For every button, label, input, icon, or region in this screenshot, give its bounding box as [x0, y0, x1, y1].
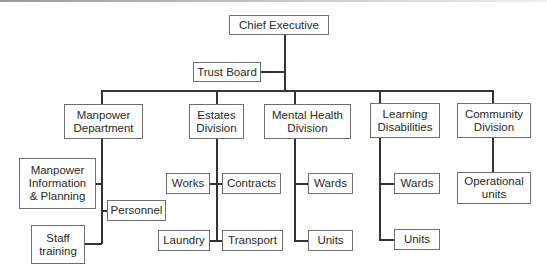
ld-wards-connector — [379, 183, 394, 185]
works-contracts-connector — [209, 183, 223, 185]
division-bus-line — [101, 90, 493, 92]
staff-connector — [84, 243, 102, 245]
trunk-line — [284, 34, 286, 91]
node-mh-wards: Wards — [308, 173, 353, 194]
node-contracts: Contracts — [222, 173, 281, 194]
learning-trunk — [379, 137, 381, 240]
node-personnel: Personnel — [107, 200, 166, 221]
scan-border — [0, 0, 547, 2]
laundry-transport-connector — [209, 240, 223, 242]
node-manpower-department: Manpower Department — [64, 104, 143, 139]
mental-trunk — [294, 138, 296, 241]
manpower-trunk — [101, 138, 103, 244]
ld-units-connector — [379, 239, 394, 241]
node-mental-health-division: Mental Health Division — [264, 104, 351, 139]
estates-trunk — [216, 138, 218, 241]
mh-units-connector — [294, 240, 308, 242]
learning-stub — [379, 90, 381, 103]
node-ld-wards: Wards — [394, 173, 440, 194]
community-trunk — [492, 137, 494, 172]
node-chief-executive: Chief Executive — [229, 15, 329, 35]
node-staff-training: Staff training — [31, 225, 85, 264]
mp-info-connector — [95, 183, 102, 185]
node-mh-units: Units — [308, 230, 353, 251]
trust-connector — [260, 71, 284, 73]
node-learning-disabilities: Learning Disabilities — [370, 103, 440, 138]
node-laundry: Laundry — [158, 230, 210, 251]
node-works: Works — [166, 173, 210, 194]
node-community-division: Community Division — [457, 103, 531, 138]
mh-wards-connector — [294, 183, 308, 185]
node-manpower-information-planning: Manpower Information & Planning — [19, 158, 96, 209]
node-estates-division: Estates Division — [189, 104, 244, 139]
node-transport: Transport — [222, 230, 283, 251]
node-ld-units: Units — [394, 229, 440, 250]
estates-stub — [216, 90, 218, 104]
community-stub — [492, 90, 494, 103]
mental-stub — [294, 90, 296, 104]
manpower-stub — [101, 90, 103, 104]
node-trust-board: Trust Board — [193, 62, 261, 82]
node-operational-units: Operational units — [457, 172, 531, 204]
